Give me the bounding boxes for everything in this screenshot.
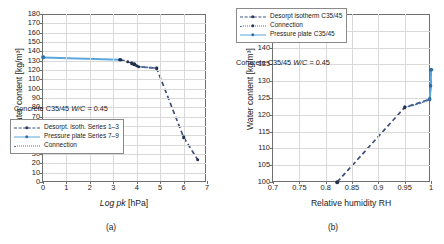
y-tick-mark	[40, 79, 43, 80]
y-tick-mark	[40, 51, 43, 52]
legend-key-icon	[14, 132, 40, 141]
y-tick-label: 130	[28, 57, 40, 64]
legend-key-marker	[25, 135, 28, 138]
gridline-horizontal	[43, 89, 206, 90]
data-point-marker	[429, 84, 433, 88]
y-tick-label: 110	[28, 76, 40, 83]
legend-label: Desorpt isotherm C35/45	[270, 13, 342, 20]
x-tick-label: 0	[41, 184, 45, 191]
chart-panel-b: Water content [kg/m³] Relative humidity …	[222, 0, 444, 244]
y-tick-label: 20	[32, 160, 40, 167]
legend-row: Desorpt isotherm C35/45	[240, 12, 342, 21]
legend-b: Desorpt isotherm C35/45ConnectionPressur…	[236, 8, 347, 43]
legend-label: Connection	[270, 22, 303, 29]
gridline-horizontal	[43, 154, 206, 155]
legend-label: Pressure plate C35/45	[270, 31, 335, 38]
y-tick-mark	[40, 70, 43, 71]
gridline-vertical	[378, 14, 379, 181]
series-line	[43, 57, 120, 59]
legend-key-icon	[240, 30, 266, 39]
data-point-marker	[137, 65, 141, 69]
y-tick-label: 100	[28, 85, 40, 92]
x-tick-label: 5	[158, 184, 162, 191]
data-point-marker	[41, 56, 45, 60]
y-tick-mark	[270, 148, 273, 149]
legend-key-line	[14, 145, 40, 146]
y-tick-mark	[40, 117, 43, 118]
y-tick-label: 130	[258, 77, 270, 84]
data-point-marker	[403, 106, 407, 110]
y-tick-mark	[40, 33, 43, 34]
x-tick-label: 1	[64, 184, 68, 191]
subcaption-a: (a)	[0, 222, 222, 232]
y-tick-mark	[40, 23, 43, 24]
legend-key-marker	[251, 24, 254, 27]
y-tick-label: 180	[28, 10, 40, 17]
y-tick-label: 10	[32, 169, 40, 176]
annotation-a-italic: W/C	[71, 104, 85, 113]
y-tick-label: 110	[258, 145, 270, 152]
y-tick-mark	[270, 48, 273, 49]
x-tick-label: 0.7	[268, 184, 278, 191]
x-tick-label: 3	[111, 184, 115, 191]
gridline-horizontal	[43, 98, 206, 99]
gridline-horizontal	[43, 51, 206, 52]
legend-row: Pressure plate Series 7–9	[14, 132, 119, 141]
legend-row: Pressure plate C35/45	[240, 30, 342, 39]
x-axis-label-a: Log pk [hPa]	[42, 198, 206, 208]
y-tick-mark	[40, 163, 43, 164]
y-tick-mark	[40, 89, 43, 90]
legend-row: Desorpt. isoth. Series 1–3	[14, 123, 119, 132]
data-point-marker	[119, 58, 123, 62]
gridline-vertical	[137, 14, 138, 181]
data-point-marker	[335, 180, 339, 184]
gridline-horizontal	[43, 79, 206, 80]
x-tick-label: 0.9	[373, 184, 383, 191]
y-tick-label: 90	[32, 94, 40, 101]
data-point-marker	[429, 68, 433, 72]
y-tick-label: 0	[36, 178, 40, 185]
x-tick-label: 6	[182, 184, 186, 191]
chart-panel-a: Water content [kg/m³] Log pk [hPa] 01020…	[0, 0, 222, 244]
gridline-horizontal	[43, 117, 206, 118]
gridline-vertical	[66, 14, 67, 181]
gridline-horizontal	[43, 23, 206, 24]
annotation-b-plain: Concrete C35/45	[236, 58, 293, 67]
y-tick-mark	[40, 61, 43, 62]
legend-key-marker	[25, 126, 28, 129]
x-tick-label: 2	[88, 184, 92, 191]
series-line	[405, 99, 430, 107]
legend-label: Connection	[44, 142, 77, 149]
annotation-b: Concrete C35/45 W/C = 0.45	[236, 58, 330, 67]
x-tick-label: 0.75	[292, 184, 306, 191]
y-tick-mark	[40, 154, 43, 155]
legend-key-marker	[251, 33, 254, 36]
x-tick-label: 4	[135, 184, 139, 191]
y-tick-mark	[270, 98, 273, 99]
y-tick-label: 150	[28, 38, 40, 45]
y-tick-label: 170	[28, 20, 40, 27]
gridline-horizontal	[43, 163, 206, 164]
legend-key-icon	[240, 21, 266, 30]
data-point-marker	[182, 135, 186, 139]
y-tick-label: 115	[258, 128, 270, 135]
plot-area-a: 0102030405060708090100110120130140150160…	[42, 14, 206, 182]
y-tick-label: 140	[258, 44, 270, 51]
y-tick-mark	[40, 42, 43, 43]
y-tick-mark	[40, 98, 43, 99]
gridline-vertical	[405, 14, 406, 181]
annotation-b-italic: W/C	[293, 58, 307, 67]
legend-row: Connection	[240, 21, 342, 30]
annotation-a-tail: = 0.45	[85, 104, 108, 113]
gridline-horizontal	[43, 70, 206, 71]
legend-label: Pressure plate Series 7–9	[44, 133, 119, 140]
data-point-marker	[155, 66, 159, 70]
gridline-vertical	[113, 14, 114, 181]
data-point-marker	[428, 98, 432, 102]
x-tick-label: 0.8	[321, 184, 331, 191]
annotation-a: Concrete C35/45 W/C = 0.45	[14, 104, 108, 113]
figure-container: Water content [kg/m³] Log pk [hPa] 01020…	[0, 0, 444, 244]
y-tick-label: 120	[28, 66, 40, 73]
legend-key-icon	[240, 12, 266, 21]
legend-key-icon	[14, 141, 40, 150]
